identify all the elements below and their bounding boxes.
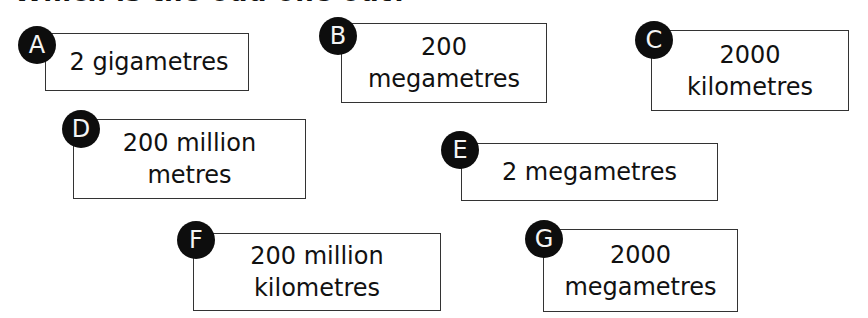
question-heading: Which is the odd one out? xyxy=(14,0,408,6)
option-letter-badge: C xyxy=(635,21,673,59)
option-letter-badge: E xyxy=(441,131,479,169)
option-letter-badge: A xyxy=(18,26,56,64)
option-card-g[interactable]: 2000 megametres xyxy=(543,229,738,312)
option-text: 2 megametres xyxy=(502,156,677,188)
option-letter-badge: G xyxy=(525,220,563,258)
option-text: 2000 megametres xyxy=(564,239,716,303)
option-text: 200 megametres xyxy=(368,31,520,95)
option-letter-badge: F xyxy=(177,221,215,259)
option-letter-badge: D xyxy=(62,110,100,148)
option-text: 2000 kilometres xyxy=(687,39,813,103)
option-card-d[interactable]: 200 million metres xyxy=(73,119,306,199)
option-card-f[interactable]: 200 million kilometres xyxy=(193,233,441,311)
option-letter-badge: B xyxy=(319,17,357,55)
option-card-b[interactable]: 200 megametres xyxy=(341,23,547,103)
option-text: 2 gigametres xyxy=(70,46,229,78)
option-card-c[interactable]: 2000 kilometres xyxy=(651,30,849,111)
option-text: 200 million kilometres xyxy=(250,240,383,304)
option-card-e[interactable]: 2 megametres xyxy=(461,143,718,201)
option-card-a[interactable]: 2 gigametres xyxy=(45,33,249,91)
option-text: 200 million metres xyxy=(123,127,256,191)
